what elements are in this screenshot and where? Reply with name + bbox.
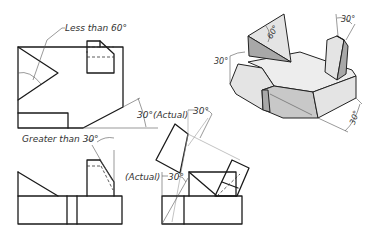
front-view-base — [18, 196, 122, 224]
label-iso-30-right: 30° — [348, 109, 361, 125]
extension-line — [92, 145, 112, 180]
isometric-view: 30° 60° 30° 30° — [214, 14, 362, 132]
angle-arc — [230, 52, 245, 56]
technical-drawing: Less than 60° 30°(Actual) Greater than 3… — [0, 0, 374, 238]
aux-tilted-block — [215, 160, 249, 196]
top-view-triangle — [18, 47, 58, 100]
label-actual-bottom: (Actual) — [125, 172, 160, 182]
front-view: Greater than 30° — [18, 134, 122, 224]
front-view-triangle — [18, 172, 58, 196]
aux-diagonal — [189, 172, 217, 196]
extension-line — [336, 14, 338, 36]
auxiliary-view: (Actual) 30° 30° — [125, 106, 249, 224]
angle-arc — [97, 138, 114, 143]
extension-line — [356, 98, 362, 104]
label-30-actual-top: 30°(Actual) — [137, 110, 188, 120]
top-view-lower-rect — [18, 113, 68, 128]
projection-line — [188, 134, 240, 160]
label-greater-than-30: Greater than 30° — [22, 134, 99, 144]
label-iso-30-left: 30° — [214, 57, 228, 66]
top-view-outline — [18, 47, 123, 128]
label-less-than-60: Less than 60° — [65, 23, 127, 33]
leader-line — [33, 28, 65, 80]
extension-line — [346, 24, 355, 40]
aux-tilted-face — [156, 124, 188, 173]
label-iso-30-top: 30° — [341, 15, 355, 24]
front-view-block — [87, 160, 114, 196]
label-30-aux: 30° — [193, 106, 209, 116]
angle-arc — [18, 72, 41, 84]
extension-line — [318, 118, 348, 132]
top-view: Less than 60° 30°(Actual) — [18, 23, 188, 128]
label-30-bottom: 30° — [168, 172, 184, 182]
extension-line — [123, 98, 140, 107]
